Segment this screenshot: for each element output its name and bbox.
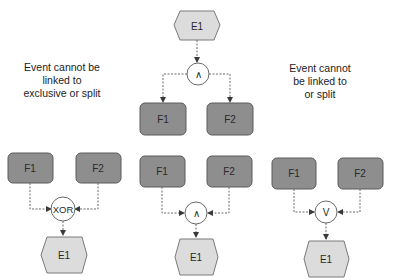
or-flow-from-f1 (294, 189, 314, 212)
top-split-group: E1 ∧ F1 F2 (140, 11, 253, 135)
top-function-f2-label: F2 (224, 114, 236, 125)
xor-flow-from-f1 (30, 183, 51, 209)
note-left-line-1: Event cannot be (2, 61, 122, 74)
bottom-or-group: F1 F2 V E1 (272, 158, 383, 277)
top-event-label: E1 (191, 21, 204, 32)
note-right-line-1: Event cannot (270, 62, 370, 75)
and-flow-from-f2 (208, 187, 229, 213)
or-connector-label: V (323, 207, 330, 218)
top-flow-to-f1 (163, 74, 187, 102)
note-right-line-3: or split (270, 88, 370, 101)
or-function-f1-label: F1 (288, 168, 300, 179)
epc-diagram-canvas: E1 ∧ F1 F2 F1 F2 XOR E1 F1 F2 ∧ (0, 0, 393, 280)
or-function-f2-label: F2 (354, 168, 366, 179)
and-function-f2-label: F2 (223, 166, 235, 177)
xor-event-label: E1 (58, 250, 71, 261)
xor-function-f1-label: F1 (24, 163, 36, 174)
or-event-label: E1 (320, 254, 333, 265)
top-and-connector-label: ∧ (195, 69, 202, 80)
or-flow-from-f2 (338, 189, 360, 212)
and-function-f1-label: F1 (156, 166, 168, 177)
note-left: Event cannot be linked to exclusive or s… (2, 61, 122, 100)
note-right-line-2: be linked to (270, 75, 370, 88)
bottom-xor-group: F1 F2 XOR E1 (8, 153, 121, 273)
and-connector-label: ∧ (193, 208, 200, 219)
and-event-label: E1 (190, 252, 203, 263)
top-flow-to-f2 (209, 74, 230, 102)
and-flow-from-f1 (162, 187, 184, 213)
xor-flow-from-f2 (75, 183, 98, 209)
top-function-f1-label: F1 (157, 114, 169, 125)
note-left-line-3: exclusive or split (2, 87, 122, 100)
note-right: Event cannot be linked to or split (270, 62, 370, 101)
xor-function-f2-label: F2 (92, 163, 104, 174)
note-left-line-2: linked to (2, 74, 122, 87)
xor-connector-label: XOR (53, 204, 74, 215)
bottom-and-group: F1 F2 ∧ E1 (140, 156, 252, 275)
